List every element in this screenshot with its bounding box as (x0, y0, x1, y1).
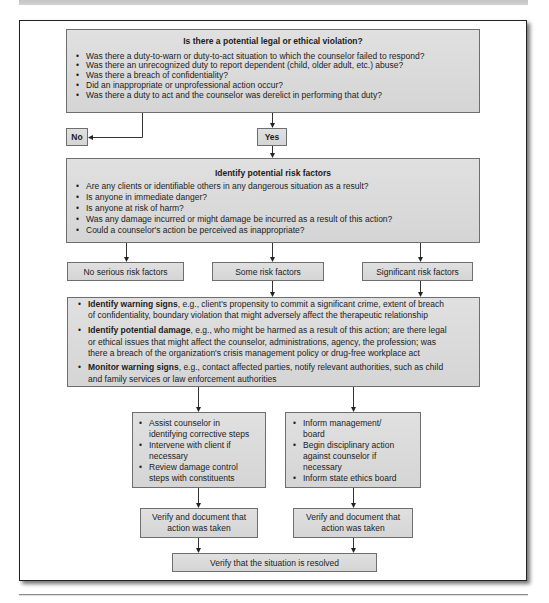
significant-risk-box: Significant risk factors (362, 262, 473, 281)
list-item: Assist counselor in identifying correcti… (149, 418, 265, 440)
verify-left-box: Verify and document that action was take… (140, 508, 258, 538)
bottom-rule (19, 594, 528, 595)
item-lead: Identify warning signs (88, 299, 178, 309)
risk-factors-box: Identify potential risk factors Are any … (66, 158, 480, 243)
list-item: Identify potential damage, e.g., who mig… (88, 325, 479, 359)
list-item: Monitor warning signs, e.g., contact aff… (88, 362, 479, 385)
corrective-steps-box: Assist counselor in identifying correcti… (132, 412, 266, 488)
yes-label: Yes (265, 132, 280, 142)
some-risk-label: Some risk factors (235, 267, 301, 277)
some-risk-box: Some risk factors (212, 262, 324, 281)
list-item: Inform state ethics board (303, 473, 420, 484)
list-item: Identify warning signs, e.g., client's p… (88, 299, 479, 322)
disciplinary-steps-box: Inform management/ board Begin disciplin… (285, 412, 421, 488)
list-item: Could a counselor's action be perceived … (86, 225, 479, 236)
verify-right-box: Verify and document that action was take… (293, 508, 413, 538)
resolved-label: Verify that the situation is resolved (210, 558, 339, 568)
risk-factors-list: Are any clients or identifiable others i… (67, 181, 479, 237)
response-actions-box: Identify warning signs, e.g., client's p… (67, 297, 480, 387)
no-label: No (71, 132, 82, 142)
list-item: Are any clients or identifiable others i… (86, 181, 479, 192)
disciplinary-steps-list: Inform management/ board Begin disciplin… (286, 418, 420, 484)
response-actions-list: Identify warning signs, e.g., client's p… (68, 299, 479, 385)
no-decision-box: No (66, 128, 88, 146)
yes-decision-box: Yes (257, 128, 287, 146)
item-lead: Monitor warning signs (88, 362, 179, 372)
resolved-box: Verify that the situation is resolved (172, 553, 377, 572)
significant-risk-label: Significant risk factors (376, 267, 459, 277)
list-item: Was there a duty to act and the counselo… (86, 91, 479, 101)
no-serious-risk-box: No serious risk factors (67, 262, 184, 281)
list-item: Inform management/ board (303, 418, 420, 440)
list-item: Is anyone in immediate danger? (86, 192, 479, 203)
violation-question-list: Was there a duty-to-warn or duty-to-act … (67, 52, 479, 101)
corrective-steps-list: Assist counselor in identifying correcti… (133, 418, 265, 484)
list-item: Is anyone at risk of harm? (86, 203, 479, 214)
violation-question-title: Is there a potential legal or ethical vi… (67, 36, 479, 47)
list-item: Review damage control steps with constit… (149, 462, 265, 484)
violation-question-box: Is there a potential legal or ethical vi… (66, 29, 480, 113)
risk-factors-title: Identify potential risk factors (67, 168, 479, 179)
list-item: Was any damage incurred or might damage … (86, 214, 479, 225)
list-item: Begin disciplinary action against counse… (303, 440, 420, 473)
list-item: Intervene with client if necessary (149, 440, 265, 462)
no-serious-risk-label: No serious risk factors (83, 267, 167, 277)
item-lead: Identify potential damage (88, 325, 191, 335)
header-band (19, 0, 528, 5)
